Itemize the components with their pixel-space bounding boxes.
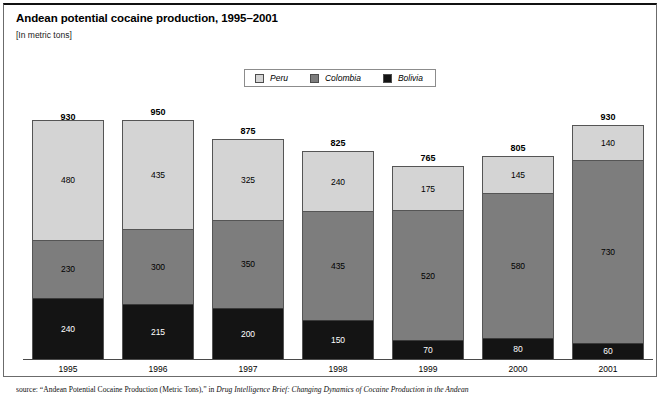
- source-publication-title: Drug Intelligence Brief: Changing Dynami…: [216, 386, 468, 394]
- bar-segment-value: 150: [331, 336, 345, 345]
- bar-segment-value: 730: [601, 248, 615, 257]
- bar-segment-bolivia[interactable]: 215: [123, 305, 193, 359]
- bar-total-label: 930: [563, 112, 653, 122]
- bar-segment-colombia[interactable]: 350: [213, 221, 283, 309]
- x-axis-tick-labels: 1995199619971998199920002001: [23, 364, 653, 374]
- bar-segment-colombia[interactable]: 520: [393, 211, 463, 341]
- bar-segment-colombia[interactable]: 580: [483, 194, 553, 339]
- legend-swatch-icon: [255, 74, 264, 83]
- bar-segment-value: 175: [421, 185, 435, 194]
- bar-segment-peru[interactable]: 145: [483, 157, 553, 193]
- stacked-bar[interactable]: 435300215: [122, 120, 194, 359]
- bar-segment-value: 435: [331, 262, 345, 271]
- bar-segment-colombia[interactable]: 230: [33, 241, 103, 299]
- bar-segment-bolivia[interactable]: 60: [573, 344, 643, 359]
- x-axis-tick-2000: 2000: [473, 364, 563, 374]
- stacked-bar[interactable]: 480230240: [32, 120, 104, 359]
- bar-total-label: 765: [383, 153, 473, 163]
- legend-item-label: Bolivia: [398, 73, 423, 83]
- x-axis-tick-1995: 1995: [23, 364, 113, 374]
- stacked-bar[interactable]: 325350200: [212, 139, 284, 359]
- bar-segment-value: 350: [241, 260, 255, 269]
- bar-segment-bolivia[interactable]: 150: [303, 321, 373, 359]
- bar-slot: 80514558080: [473, 97, 563, 359]
- legend-swatch-icon: [310, 74, 319, 83]
- figure-header: Andean potential cocaine production, 199…: [4, 5, 656, 40]
- bar-total-label: 805: [473, 143, 563, 153]
- stacked-bar[interactable]: 14073060: [572, 125, 644, 359]
- legend-item-bolivia: Bolivia: [383, 73, 423, 83]
- bar-segment-value: 140: [601, 139, 615, 148]
- bar-group: 9304802302409504353002158753253502008252…: [23, 97, 653, 359]
- legend-item-colombia: Colombia: [310, 73, 361, 83]
- bar-segment-value: 200: [241, 330, 255, 339]
- stacked-bar[interactable]: 240435150: [302, 151, 374, 359]
- legend-item-peru: Peru: [255, 73, 288, 83]
- bar-segment-peru[interactable]: 435: [123, 121, 193, 230]
- bar-segment-value: 480: [61, 176, 75, 185]
- x-axis-tick-1998: 1998: [293, 364, 383, 374]
- bar-segment-colombia[interactable]: 435: [303, 212, 373, 321]
- stacked-bar[interactable]: 14558080: [482, 156, 554, 359]
- bar-segment-value: 70: [423, 346, 432, 355]
- bar-total-label: 875: [203, 126, 293, 136]
- bar-segment-value: 580: [511, 262, 525, 271]
- x-axis-tick-2001: 2001: [563, 364, 653, 374]
- x-axis-line: [23, 359, 653, 360]
- bar-total-label: 950: [113, 107, 203, 117]
- bar-segment-bolivia[interactable]: 200: [213, 309, 283, 359]
- bar-segment-value: 435: [151, 171, 165, 180]
- bar-segment-value: 230: [61, 265, 75, 274]
- bar-segment-value: 80: [513, 345, 522, 354]
- bar-segment-bolivia[interactable]: 240: [33, 299, 103, 359]
- bar-segment-peru[interactable]: 240: [303, 152, 373, 212]
- bar-slot: 930480230240: [23, 97, 113, 359]
- figure-frame: Andean potential cocaine production, 199…: [3, 3, 657, 377]
- chart-legend: PeruColombiaBolivia: [244, 69, 436, 87]
- bar-segment-value: 145: [511, 171, 525, 180]
- chart-units-subtitle: [In metric tons]: [16, 30, 656, 40]
- bar-slot: 950435300215: [113, 97, 203, 359]
- legend-swatch-icon: [383, 74, 392, 83]
- bar-segment-value: 325: [241, 176, 255, 185]
- bar-slot: 875325350200: [203, 97, 293, 359]
- bar-segment-colombia[interactable]: 730: [573, 161, 643, 344]
- bar-segment-value: 300: [151, 263, 165, 272]
- bar-segment-peru[interactable]: 480: [33, 121, 103, 241]
- bar-segment-peru[interactable]: 175: [393, 167, 463, 211]
- bar-segment-bolivia[interactable]: 80: [483, 339, 553, 359]
- bar-slot: 825240435150: [293, 97, 383, 359]
- legend-item-label: Colombia: [325, 73, 361, 83]
- bar-segment-colombia[interactable]: 300: [123, 230, 193, 305]
- bar-segment-bolivia[interactable]: 70: [393, 341, 463, 359]
- bar-segment-value: 240: [61, 325, 75, 334]
- legend-item-label: Peru: [270, 73, 288, 83]
- x-axis-tick-1996: 1996: [113, 364, 203, 374]
- bar-segment-value: 215: [151, 328, 165, 337]
- bar-segment-peru[interactable]: 140: [573, 126, 643, 161]
- bar-segment-value: 520: [421, 272, 435, 281]
- bar-slot: 76517552070: [383, 97, 473, 359]
- bar-slot: 93014073060: [563, 97, 653, 359]
- bar-segment-value: 240: [331, 178, 345, 187]
- bar-total-label: 825: [293, 138, 383, 148]
- chart-plot-area: 9304802302409504353002158753253502008252…: [23, 97, 653, 360]
- x-axis-tick-1999: 1999: [383, 364, 473, 374]
- bar-segment-value: 60: [603, 347, 612, 356]
- page-title: Andean potential cocaine production, 199…: [16, 12, 656, 24]
- bar-segment-peru[interactable]: 325: [213, 140, 283, 221]
- source-note: source: “Andean Potential Cocaine Produc…: [16, 386, 661, 395]
- x-axis-tick-1997: 1997: [203, 364, 293, 374]
- stacked-bar[interactable]: 17552070: [392, 166, 464, 359]
